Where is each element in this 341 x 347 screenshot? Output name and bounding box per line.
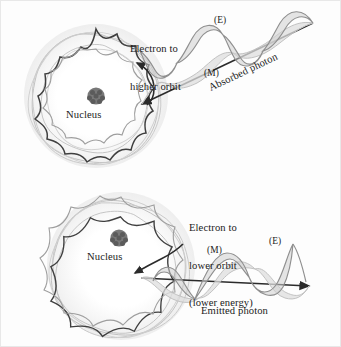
label-line-2: lower orbit	[189, 260, 253, 273]
label-electron-to-higher-orbit: Electron to higher orbit	[130, 18, 181, 118]
label-line-1: Electron to	[189, 222, 253, 235]
label-nucleus-bottom: Nucleus	[87, 251, 122, 264]
label-emitted-photon: Emitted photon	[201, 305, 268, 318]
label-electric-component-top: (E)	[214, 15, 226, 26]
label-magnetic-component-bottom: (M)	[207, 245, 222, 256]
panel-emission	[29, 177, 309, 347]
label-nucleus-top: Nucleus	[66, 109, 101, 122]
label-line-1: Electron to	[130, 43, 181, 56]
label-electric-component-bottom: (E)	[269, 236, 281, 247]
physics-diagram: Electron to higher orbit (E) (M) Absorbe…	[0, 0, 341, 347]
label-line-2: higher orbit	[130, 81, 181, 94]
